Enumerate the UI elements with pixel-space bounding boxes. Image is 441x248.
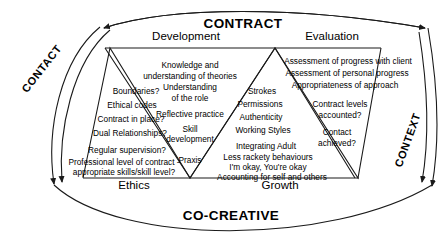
development-item: Understanding (163, 82, 217, 93)
evaluation-item: Appropriateness of approach (292, 80, 399, 91)
section-header-ethics: Ethics (118, 180, 149, 192)
growth-item: Working Styles (235, 125, 290, 136)
ethics-item: Ethical codes (107, 100, 156, 111)
growth-item: Accounting for self and others (217, 172, 327, 183)
development-item: understanding of theories (143, 71, 237, 82)
evaluation-item: Assessment of personal progress (285, 68, 408, 79)
growth-item: Integrating Adult (236, 141, 296, 152)
development-item: Reflective practice (156, 109, 224, 120)
growth-item: Permissions (237, 99, 282, 110)
growth-item: Strokes (248, 86, 276, 97)
evaluation-item: achieved? (318, 138, 356, 149)
evaluation-item: accounted? (319, 110, 362, 121)
title-contract: CONTRACT (204, 17, 283, 31)
ethics-item: Contract in place? (98, 114, 165, 125)
development-item: Knowledge and (161, 60, 218, 71)
ethics-item: Regular supervision? (88, 145, 166, 156)
growth-item: Authenticity (240, 112, 283, 123)
evaluation-item: Contact (323, 127, 352, 138)
development-item: Praxis (178, 155, 201, 166)
ethics-item: appropriate skills/skill level? (73, 167, 175, 178)
right-outer-arc (428, 28, 437, 186)
development-item: development (166, 134, 214, 145)
title-co-creative: CO-CREATIVE (183, 209, 279, 223)
ethics-item: Boundaries? (113, 86, 160, 97)
right-inner-arc (419, 32, 427, 182)
section-header-evaluation: Evaluation (305, 31, 359, 43)
ethics-item: Dual Relationships? (93, 128, 167, 139)
diagram-canvas: CONTRACT CO-CREATIVE Development Evaluat… (0, 0, 441, 248)
evaluation-item: Contract levels (313, 99, 368, 110)
development-item: of the role (172, 93, 209, 104)
section-header-development: Development (152, 31, 220, 43)
evaluation-item: Assessment of progress with client (284, 56, 412, 67)
